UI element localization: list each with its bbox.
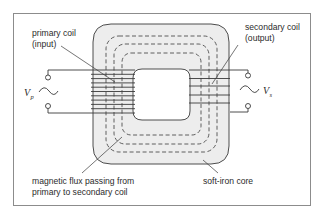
input-terminal-top [46,75,51,80]
flux-sublabel: primary to secondary coil [32,187,128,197]
transformer-diagram: primary coil (input) secondary coil (out… [0,0,327,218]
output-terminal-bottom [246,104,251,109]
output-terminal-top [246,73,251,78]
primary-coil-sublabel: (input) [32,39,56,49]
input-terminal-bottom [46,104,51,109]
secondary-coil-label: secondary coil [245,22,300,32]
primary-coil-label: primary coil [32,28,76,38]
flux-label: magnetic flux passing from [32,176,134,186]
secondary-coil-sublabel: (output) [245,33,275,43]
core-label: soft-iron core [203,176,253,186]
